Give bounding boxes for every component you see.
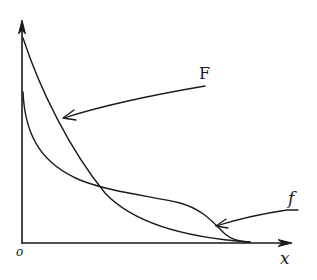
x-axis: [22, 240, 292, 247]
f-pointer-arrow: [216, 210, 298, 228]
label-x-axis: x: [280, 248, 290, 268]
label-origin: o: [16, 245, 23, 259]
label-F: F: [199, 64, 210, 83]
y-axis: [19, 20, 26, 243]
curve-F: [23, 38, 250, 242]
F-pointer-arrow: [63, 86, 205, 120]
label-f: f: [286, 188, 297, 208]
diagram-canvas: F f o x: [0, 0, 317, 280]
curve-f: [23, 92, 250, 242]
